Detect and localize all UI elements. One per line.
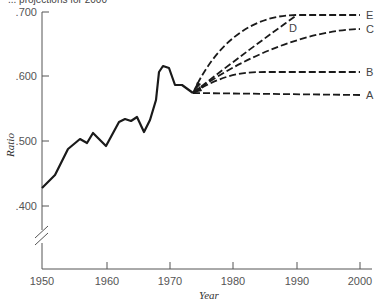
series-label-a: A xyxy=(366,89,374,101)
projection-line-a xyxy=(193,93,360,95)
chart-title: ... projections for 2000 xyxy=(8,0,107,5)
x-tick-label: 2000 xyxy=(348,275,372,287)
x-tick-label: 1970 xyxy=(158,275,182,287)
y-tick-label: .500 xyxy=(16,135,37,147)
x-tick-label: 1980 xyxy=(221,275,245,287)
x-tick-label: 1950 xyxy=(30,275,54,287)
series-label-b: B xyxy=(366,66,373,78)
series-label-d: D xyxy=(289,22,297,34)
historical-line xyxy=(42,66,193,188)
projection-line-c xyxy=(193,29,360,93)
y-tick-label: .400 xyxy=(16,200,37,212)
x-tick-label: 1960 xyxy=(95,275,119,287)
series-label-e: E xyxy=(366,9,373,21)
projection-line-b xyxy=(193,72,360,93)
series-label-c: C xyxy=(366,23,374,35)
x-tick-label: 1990 xyxy=(285,275,309,287)
ratio-projection-chart: ... projections for 2000 .700 .600 .500 … xyxy=(0,0,383,302)
y-tick-label: .700 xyxy=(16,6,37,18)
y-tick-label: .600 xyxy=(16,70,37,82)
arrowheads xyxy=(193,82,202,93)
projection-line-d xyxy=(193,15,297,93)
y-axis-title: Ratio xyxy=(4,133,16,158)
x-axis-title: Year xyxy=(199,289,219,301)
projection-lines xyxy=(193,15,360,95)
projection-line-e xyxy=(193,15,360,93)
x-axis xyxy=(42,262,372,269)
